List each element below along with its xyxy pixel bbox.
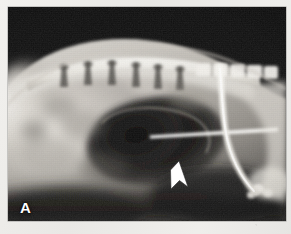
radiograph-canvas <box>8 7 286 221</box>
arrow-icon <box>168 160 190 190</box>
film-grain <box>8 7 286 221</box>
panel-letter: A <box>20 200 31 215</box>
arrow-marker <box>168 160 190 190</box>
radiograph-image: A <box>8 7 286 221</box>
figure-root: A <box>0 0 291 234</box>
